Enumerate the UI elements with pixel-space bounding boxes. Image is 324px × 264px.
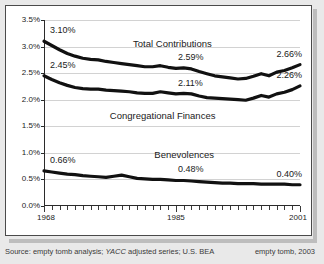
x-axis-tick-mark	[52, 206, 53, 210]
x-axis-tick-mark	[176, 206, 177, 212]
series-title-congregational-finances: Congregational Finances	[110, 111, 216, 121]
source-prefix: Source: empty tomb analysis;	[5, 247, 105, 256]
card-shadow-right	[313, 9, 317, 243]
source-suffix: adjusted series; U.S. BEA	[126, 247, 214, 256]
x-axis-tick-mark	[44, 206, 45, 212]
x-axis-tick-mark	[199, 206, 200, 210]
start-value-label: 0.66%	[50, 156, 76, 165]
series-title-total-contributions: Total Contributions	[133, 39, 212, 49]
x-axis-tick-mark	[277, 206, 278, 210]
mid-value-label: 0.48%	[178, 165, 204, 174]
x-axis-tick-mark	[300, 206, 301, 212]
x-axis-tick-mark	[191, 206, 192, 210]
x-axis-tick-mark	[129, 206, 130, 210]
x-axis-tick-mark	[91, 206, 92, 210]
credit-note: empty tomb, 2003	[255, 247, 315, 256]
x-axis-tick-mark	[215, 206, 216, 210]
y-axis-tick-label: 2.0%	[6, 96, 40, 104]
x-axis-tick-mark	[83, 206, 84, 210]
x-axis-tick-mark	[98, 206, 99, 210]
x-axis-tick-mark	[292, 206, 293, 210]
end-value-label: 2.26%	[276, 71, 302, 80]
x-axis-tick-label: 1985	[167, 214, 185, 222]
x-axis-tick-mark	[230, 206, 231, 210]
end-value-label: 0.40%	[276, 170, 302, 179]
x-axis-tick-mark	[184, 206, 185, 210]
mid-value-label: 2.11%	[178, 79, 203, 88]
y-axis-tick-label: 3.5%	[6, 16, 40, 24]
y-axis-tick-label: 1.0%	[6, 149, 40, 157]
y-axis-tick-label: 2.5%	[6, 69, 40, 77]
y-axis-tick-label: 0.5%	[6, 175, 40, 183]
x-axis-tick-mark	[269, 206, 270, 210]
series-title-benevolences: Benevolences	[154, 150, 214, 160]
chart-card: 3.5%3.0%2.5%2.0%1.5%1.0%0.5%0.0% 1968198…	[5, 5, 312, 236]
y-axis-tick-label: 3.0%	[6, 43, 40, 51]
x-axis-tick-mark	[67, 206, 68, 210]
x-axis-tick-mark	[160, 206, 161, 210]
series-line	[44, 76, 300, 100]
x-axis-tick-mark	[145, 206, 146, 210]
plot-area: 3.5%3.0%2.5%2.0%1.5%1.0%0.5%0.0% 1968198…	[44, 20, 300, 206]
x-axis-tick-mark	[60, 206, 61, 210]
end-value-label: 2.66%	[276, 50, 302, 59]
x-axis-tick-mark	[246, 206, 247, 210]
x-axis-tick-mark	[284, 206, 285, 210]
start-value-label: 3.10%	[50, 26, 76, 35]
source-note: Source: empty tomb analysis; YACC adjust…	[5, 247, 214, 256]
y-axis-tick-label: 1.5%	[6, 122, 40, 130]
y-axis-tick-label: 0.0%	[6, 202, 40, 210]
source-italic: YACC	[105, 247, 125, 256]
x-axis-tick-mark	[137, 206, 138, 210]
x-axis-tick-mark	[253, 206, 254, 210]
x-axis-tick-mark	[75, 206, 76, 210]
x-axis-tick-mark	[114, 206, 115, 210]
x-axis-tick-mark	[238, 206, 239, 210]
x-axis-tick-mark	[106, 206, 107, 210]
x-axis-tick-mark	[153, 206, 154, 210]
x-axis-tick-mark	[122, 206, 123, 210]
mid-value-label: 2.59%	[178, 53, 204, 62]
x-axis-tick-mark	[222, 206, 223, 210]
x-axis-tick-mark	[261, 206, 262, 210]
x-axis-tick-label: 2001	[289, 214, 307, 222]
x-axis-tick-label: 1968	[37, 214, 55, 222]
start-value-label: 2.45%	[50, 61, 76, 70]
chart-figure: 3.5%3.0%2.5%2.0%1.5%1.0%0.5%0.0% 1968198…	[0, 0, 324, 264]
x-axis-tick-mark	[207, 206, 208, 210]
x-axis-tick-mark	[168, 206, 169, 210]
card-shadow-bottom	[9, 239, 316, 243]
series-line	[44, 171, 300, 185]
